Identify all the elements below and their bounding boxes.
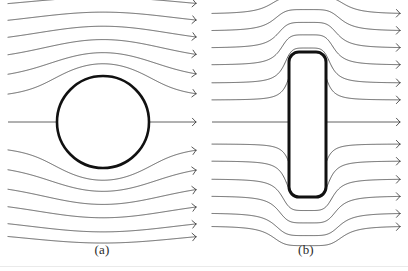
scan-artifact-line bbox=[0, 266, 408, 267]
panel-b-obstacle-rectangle bbox=[289, 52, 326, 197]
panel-label-a: (a) bbox=[0, 242, 204, 258]
flow-figure bbox=[0, 0, 408, 271]
panel-label-b: (b) bbox=[204, 242, 408, 258]
panel-a-obstacle-circle bbox=[57, 76, 149, 168]
